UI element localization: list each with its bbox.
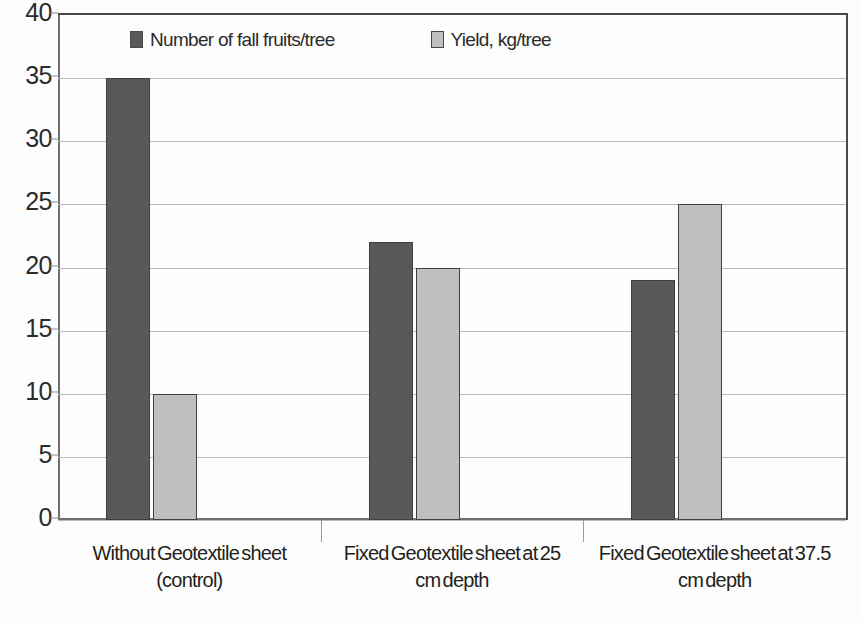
bar	[106, 78, 150, 520]
legend-swatch-icon	[431, 31, 444, 48]
y-axis-tick-label: 20	[6, 253, 52, 278]
x-axis-category-label-line: Fixed Geotextile sheet at 25	[313, 540, 592, 567]
gridline	[58, 520, 846, 521]
y-axis-tick-mark	[50, 265, 59, 266]
gridline	[58, 204, 846, 205]
y-axis-tick-label: 30	[6, 126, 52, 151]
y-axis-tick-label: 5	[6, 442, 52, 467]
bar-chart: 4035302520151050 Number of fall fruits/t…	[0, 0, 860, 623]
y-axis-tick-label: 40	[6, 0, 52, 25]
y-axis-tick-label: 10	[6, 379, 52, 404]
y-axis-tick-label: 35	[6, 63, 52, 88]
y-axis-tick-mark	[50, 13, 59, 14]
y-axis-tick-label: 15	[6, 316, 52, 341]
legend-item-number-of-fall-fruits-per-tree: Number of fall fruits/tree	[130, 30, 335, 49]
y-axis-tick-label: 0	[6, 505, 52, 530]
y-axis-tick-label: 25	[6, 189, 52, 214]
gridline	[58, 141, 846, 142]
bar	[631, 280, 675, 520]
bar	[678, 204, 722, 520]
y-axis-tick-mark	[50, 76, 59, 77]
y-axis-tick-mark	[50, 518, 59, 519]
x-axis-category-label: Fixed Geotextile sheet at 25cm depth	[313, 540, 592, 594]
x-axis-category-label: Without Geotextile sheet(control)	[50, 540, 329, 594]
y-axis-tick-mark	[50, 454, 59, 455]
legend-item-label: Yield, kg/tree	[451, 30, 551, 49]
plot-area	[58, 13, 848, 520]
y-axis-tick-mark	[50, 202, 59, 203]
x-axis-category-separator	[321, 520, 322, 542]
bar	[369, 242, 413, 520]
legend-swatch-icon	[130, 31, 143, 48]
x-axis-category-label-line: Without Geotextile sheet	[50, 540, 329, 567]
x-axis-category-label-line: Fixed Geotextile sheet at 37.5	[575, 540, 854, 567]
x-axis-category-label: Fixed Geotextile sheet at 37.5cm depth	[575, 540, 854, 594]
legend-item-yield-kg-per-tree: Yield, kg/tree	[431, 30, 551, 49]
bar	[416, 268, 460, 521]
chart-legend: Number of fall fruits/tree Yield, kg/tre…	[130, 30, 551, 49]
x-axis-category-separator	[583, 520, 584, 542]
y-axis: 4035302520151050	[0, 0, 52, 623]
y-axis-tick-mark	[50, 139, 59, 140]
x-axis-category-label-line: cm depth	[313, 567, 592, 594]
gridline	[58, 78, 846, 79]
y-axis-tick-mark	[50, 328, 59, 329]
x-axis-category-label-line: cm depth	[575, 567, 854, 594]
bar	[153, 394, 197, 520]
y-axis-tick-mark	[50, 391, 59, 392]
x-axis-category-labels: Without Geotextile sheet(control)Fixed G…	[58, 540, 848, 620]
legend-item-label: Number of fall fruits/tree	[150, 30, 335, 49]
x-axis-category-label-line: (control)	[50, 567, 329, 594]
